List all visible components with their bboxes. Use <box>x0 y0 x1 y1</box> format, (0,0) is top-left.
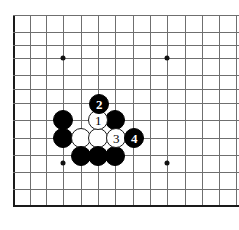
grid-line-vertical-7 <box>133 15 134 205</box>
go-board[interactable]: 1234 <box>0 0 239 230</box>
grid-line-vertical-4 <box>81 15 82 205</box>
grid-line-horizontal-9 <box>13 155 239 156</box>
black-stone[interactable] <box>53 128 73 148</box>
grid-line-vertical-8 <box>150 15 151 205</box>
grid-line-horizontal-2 <box>13 45 239 46</box>
grid-line-horizontal-4 <box>13 75 239 76</box>
grid-line-horizontal-3 <box>13 58 239 59</box>
grid-line-vertical-13 <box>236 15 237 205</box>
star-point-lower-right-icon <box>165 161 170 166</box>
star-point-lower-left-icon <box>61 161 66 166</box>
move-3-label: 3 <box>113 132 119 145</box>
black-stone[interactable] <box>105 110 125 130</box>
black-stone[interactable] <box>53 110 73 130</box>
caption-remnant <box>12 214 34 224</box>
white-stone[interactable] <box>88 128 108 148</box>
move-1-label: 1 <box>95 114 101 127</box>
grid-line-horizontal-11 <box>13 189 239 190</box>
board-left-edge <box>13 15 15 205</box>
grid-line-horizontal-7 <box>13 120 239 121</box>
grid-line-horizontal-10 <box>13 172 239 173</box>
star-point-upper-left-icon <box>61 56 66 61</box>
grid-line-vertical-2 <box>46 15 47 205</box>
grid-line-horizontal-0 <box>13 15 239 16</box>
go-diagram: 1234 <box>0 0 239 230</box>
black-stone[interactable] <box>105 146 125 166</box>
grid-line-vertical-9 <box>167 15 168 205</box>
move-4-label: 4 <box>131 132 137 145</box>
grid-line-vertical-12 <box>219 15 220 205</box>
board-bottom-edge <box>13 205 239 207</box>
grid-line-vertical-1 <box>30 15 31 205</box>
move-4-stone[interactable]: 4 <box>124 128 144 148</box>
move-3-stone[interactable]: 3 <box>106 128 126 148</box>
move-2-stone[interactable]: 2 <box>89 94 109 114</box>
move-2-label: 2 <box>96 98 102 111</box>
star-point-upper-right-icon <box>165 56 170 61</box>
grid-line-vertical-10 <box>185 15 186 205</box>
grid-line-horizontal-5 <box>13 89 239 90</box>
grid-line-horizontal-1 <box>13 32 239 33</box>
grid-line-horizontal-6 <box>13 103 239 104</box>
grid-line-vertical-11 <box>202 15 203 205</box>
